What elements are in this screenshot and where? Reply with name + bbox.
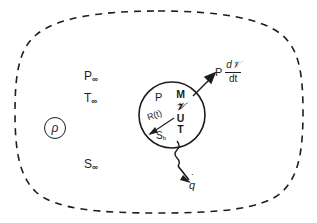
far-field-entropy-label: S∞ — [84, 158, 98, 172]
heat-flux-label: ˙ q — [189, 176, 195, 191]
state-mass: M — [176, 89, 185, 101]
state-temperature: T — [177, 124, 183, 136]
far-field-temperature-label: T∞ — [84, 92, 97, 106]
far-field-density-circle: ρ — [44, 117, 66, 139]
work-rate-label: P d𝒱 dt — [215, 60, 241, 84]
work-denominator: dt — [228, 73, 238, 85]
heat-symbol: q — [189, 179, 195, 191]
density-symbol: ρ — [52, 122, 59, 134]
work-numerator: d𝒱 — [225, 60, 241, 73]
far-field-pressure-label: P∞ — [84, 70, 98, 84]
bubble-surface-label: Sb — [156, 131, 166, 142]
state-volume: 𝒱 — [176, 101, 185, 113]
bubble-pressure-label: P — [155, 92, 162, 103]
bubble-control-volume-figure: P∞ T∞ S∞ ρ P M 𝒱 U T R(t) Sb P d𝒱 dt ˙ q — [0, 0, 317, 223]
work-fraction: d𝒱 dt — [225, 60, 241, 84]
work-pressure-symbol: P — [215, 67, 222, 78]
bubble-state-variable-stack: M 𝒱 U T — [176, 89, 185, 136]
work-arrow — [193, 73, 215, 96]
